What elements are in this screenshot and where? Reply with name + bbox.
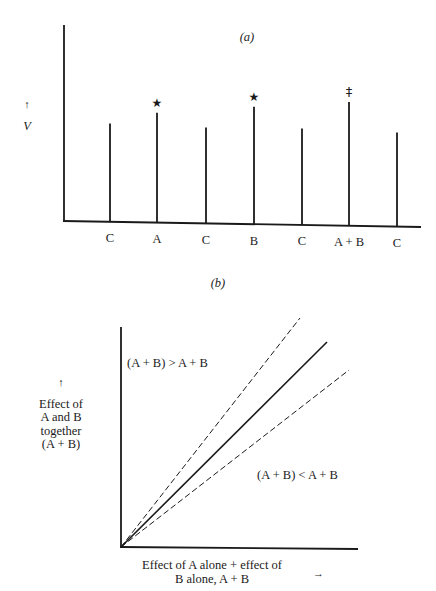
y-label-line: A and B xyxy=(39,411,83,425)
y-label-line: Effect of xyxy=(39,398,83,412)
panel-a-markers: ★★‡ xyxy=(152,84,353,110)
category-label: A xyxy=(152,233,161,246)
panel-b-label: (b) xyxy=(211,277,226,290)
category-label: C xyxy=(393,237,401,250)
additive-solid-line xyxy=(121,342,327,547)
y-axis-arrow-icon: ↑ xyxy=(24,98,30,111)
panel-a-label: (a) xyxy=(240,31,255,44)
category-label: A + B xyxy=(334,236,364,249)
y-axis-arrow-icon: ↑ xyxy=(39,376,83,390)
panel-b-lines xyxy=(121,318,349,547)
antagonism-dashed-line xyxy=(121,370,349,547)
antagonism-region-label: (A + B) < A + B xyxy=(257,469,338,482)
panel-a-x-axis xyxy=(63,221,421,227)
category-label: C xyxy=(106,232,114,245)
category-label: B xyxy=(250,235,258,248)
panel-a-axes xyxy=(63,25,421,227)
x-label-line: Effect of A alone + effect of xyxy=(142,558,282,572)
category-label: C xyxy=(202,234,210,247)
category-label: C xyxy=(298,235,306,248)
x-axis-arrow-icon: → xyxy=(313,567,324,580)
panel-b-x-axis-label: Effect of A alone + effect of B alone, A… xyxy=(142,558,282,586)
panel-b-x-axis xyxy=(120,547,358,549)
star-marker-icon: ★ xyxy=(152,96,163,110)
x-label-line: B alone, A + B xyxy=(142,572,282,586)
double-dagger-marker-icon: ‡ xyxy=(346,84,353,99)
synergy-region-label: (A + B) > A + B xyxy=(127,357,208,370)
star-marker-icon: ★ xyxy=(249,90,260,104)
y-label-line: together xyxy=(39,425,83,439)
y-label-line: (A + B) xyxy=(39,438,83,452)
panel-b-y-axis-label: ↑ Effect of A and B together (A + B) xyxy=(39,376,83,452)
synergy-dashed-line xyxy=(121,318,300,547)
figure-canvas: ★★‡ xyxy=(0,0,436,591)
panel-a-bars xyxy=(110,102,397,227)
panel-a-y-axis-label: V xyxy=(23,120,31,133)
